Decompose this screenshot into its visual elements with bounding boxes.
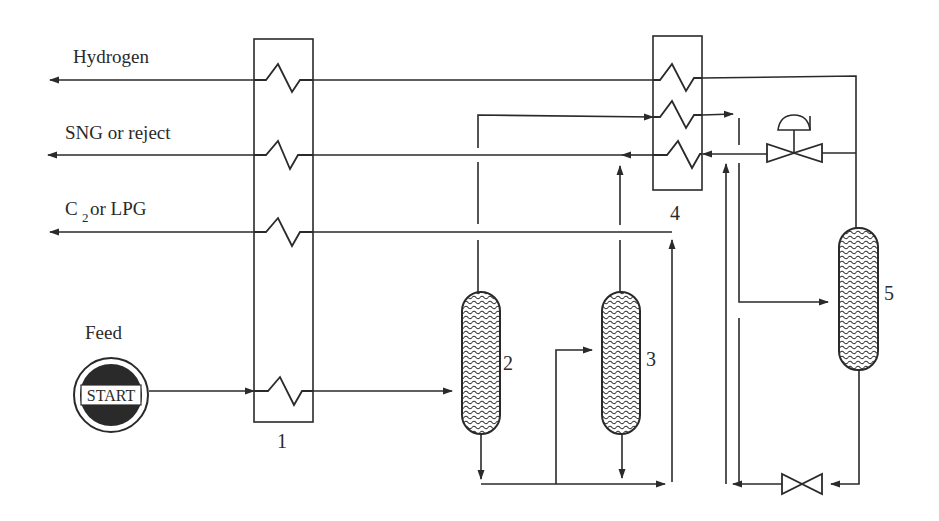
unit-label-5: 5 <box>884 282 894 304</box>
feed-label: Feed <box>85 322 122 343</box>
vessel-3-feed-line <box>556 350 592 484</box>
heat-exchanger-4 <box>653 36 702 190</box>
c2-label-subscript: 2 <box>82 210 89 225</box>
exchanger-4-middle-outlet <box>702 114 733 115</box>
control-valve-right-triangle <box>794 144 822 162</box>
c2-label-prefix: C <box>65 198 78 219</box>
unit-label-2: 2 <box>503 352 513 374</box>
c2-label-suffix: or LPG <box>90 198 147 219</box>
control-valve-left-triangle <box>767 144 794 162</box>
vessel-5-body <box>839 228 878 370</box>
vessel-3-body <box>602 292 640 434</box>
control-valve[interactable] <box>767 115 822 162</box>
exchanger-4-coil-middle <box>653 101 702 128</box>
exchanger-4-coil-sng <box>653 141 702 168</box>
exchanger-1-coil-feed <box>254 377 313 405</box>
start-button[interactable]: START <box>74 358 148 432</box>
process-flow-diagram: Hydrogen SNG or reject C 2 or LPG Feed 1… <box>0 0 939 521</box>
vessel-2-overhead-line <box>478 115 653 148</box>
vessel-5-bottoms-line <box>831 370 859 484</box>
control-valve-actuator <box>778 115 810 130</box>
exchanger-1-coil-c2 <box>254 218 313 246</box>
vessel-5-feed-line <box>739 163 828 302</box>
vessel-2-body <box>462 292 500 434</box>
bottoms-valve-right-triangle <box>802 474 822 494</box>
bottoms-valve[interactable] <box>782 474 822 494</box>
exchanger-1-coil-hydrogen <box>254 64 313 92</box>
start-label: START <box>87 387 136 404</box>
exchanger-4-coil-hydrogen <box>653 64 702 91</box>
c2-lpg-label: C 2 or LPG <box>65 198 147 225</box>
hydrogen-label: Hydrogen <box>73 46 149 67</box>
exchanger-1-coil-sng <box>254 141 313 169</box>
heat-exchanger-1 <box>254 39 313 422</box>
sng-label: SNG or reject <box>65 122 171 143</box>
vessel-3 <box>602 292 640 434</box>
unit-label-1: 1 <box>277 430 287 452</box>
unit-label-4: 4 <box>670 202 680 224</box>
unit-label-3: 3 <box>646 348 656 370</box>
vessel-2 <box>462 292 500 434</box>
vessel-5 <box>839 228 878 370</box>
bottoms-valve-left-triangle <box>782 474 802 494</box>
